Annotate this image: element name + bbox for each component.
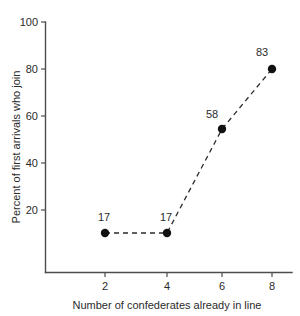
y-tick-label-80: 80 xyxy=(26,63,38,75)
x-axis-title: Number of confederates already in line xyxy=(73,299,262,311)
y-axis-title: Percent of first arrivals who join xyxy=(10,71,22,224)
y-tick-label-20: 20 xyxy=(26,204,38,216)
data-point-label-2: 17 xyxy=(160,211,172,223)
data-point-label-4: 83 xyxy=(256,46,268,58)
data-point-marker xyxy=(163,229,171,237)
data-point-label-3: 58 xyxy=(206,108,218,120)
line-chart: 100 80 60 40 20 2 4 6 8 17 17 58 83 Numb… xyxy=(0,0,300,316)
data-series-line xyxy=(105,69,272,233)
x-tick-label-8: 8 xyxy=(269,280,275,292)
data-point-marker xyxy=(268,65,276,73)
y-tick-label-40: 40 xyxy=(26,157,38,169)
data-point-marker xyxy=(101,229,109,237)
chart-figure: 100 80 60 40 20 2 4 6 8 17 17 58 83 Numb… xyxy=(0,0,300,316)
data-point-marker xyxy=(218,125,226,133)
x-tick-label-4: 4 xyxy=(164,280,170,292)
x-tick-label-6: 6 xyxy=(219,280,225,292)
data-point-label-1: 17 xyxy=(98,211,110,223)
x-tick-label-2: 2 xyxy=(102,280,108,292)
y-tick-label-60: 60 xyxy=(26,110,38,122)
y-tick-label-100: 100 xyxy=(20,16,38,28)
